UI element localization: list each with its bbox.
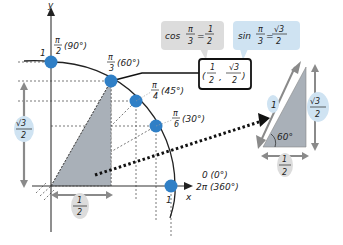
unit-circle-diagram: y x 1 1 π 2 (90°) π 3 (60°) π 4 (45°) π … — [0, 0, 343, 245]
svg-text:0 (0°): 0 (0°) — [202, 170, 228, 180]
y-one-label: 1 — [40, 48, 46, 58]
svg-text:2: 2 — [56, 47, 61, 56]
svg-text:,: , — [219, 72, 222, 82]
label-90: π 2 (90°) — [54, 36, 87, 56]
svg-text:=: = — [266, 31, 274, 41]
angle-label: 60° — [277, 132, 293, 142]
cos-callout: cos π 3 = 1 2 — [161, 21, 224, 60]
svg-text:2: 2 — [232, 76, 237, 85]
svg-text:2π (360°): 2π (360°) — [196, 182, 239, 192]
x-axis-label: x — [185, 192, 192, 202]
svg-text:2: 2 — [276, 37, 281, 46]
point-60[interactable] — [105, 75, 118, 88]
svg-text:(60°): (60°) — [117, 58, 140, 68]
svg-text:2: 2 — [315, 110, 320, 119]
svg-text:(45°): (45°) — [161, 86, 184, 96]
x-axis-arrow-icon — [184, 182, 193, 190]
svg-text:2: 2 — [282, 168, 287, 177]
coordinate-box: ( 1 2 , √3 2 ) — [199, 59, 251, 89]
label-45: π 4 (45°) — [136, 81, 184, 101]
x-one-label: 1 — [166, 195, 172, 205]
base-measure: 1 2 — [51, 191, 113, 219]
svg-text:=: = — [197, 31, 205, 41]
dotted-arrow — [95, 121, 262, 175]
svg-text:π: π — [188, 25, 193, 34]
svg-text:π: π — [173, 109, 178, 118]
point-90[interactable] — [45, 56, 58, 69]
svg-text:π: π — [108, 53, 113, 62]
height-measure: √3 2 — [14, 82, 34, 188]
svg-text:√3: √3 — [229, 63, 239, 72]
svg-text:π: π — [152, 81, 157, 90]
svg-text:4: 4 — [153, 92, 158, 101]
svg-text:(90°): (90°) — [64, 41, 87, 51]
hyp-label: 1 — [271, 100, 277, 110]
svg-text:π: π — [55, 36, 60, 45]
svg-text:(: ( — [202, 71, 206, 81]
svg-text:1: 1 — [282, 155, 287, 164]
svg-text:√3: √3 — [310, 97, 320, 106]
sin-callout: sin π 3 = √3 2 — [233, 21, 300, 60]
y-axis-label: y — [47, 0, 54, 10]
point-0[interactable] — [165, 180, 178, 193]
svg-text:6: 6 — [174, 120, 179, 129]
svg-text:3: 3 — [258, 37, 263, 46]
svg-text:√3: √3 — [16, 119, 26, 128]
svg-text:): ) — [241, 71, 246, 81]
label-30: π 6 (30°) — [156, 109, 205, 129]
svg-text:1: 1 — [208, 25, 213, 34]
label-60: π 3 (60°) — [107, 53, 140, 73]
svg-text:2: 2 — [77, 208, 82, 217]
svg-text:2: 2 — [21, 131, 26, 140]
svg-text:sin: sin — [238, 31, 251, 41]
svg-text:2: 2 — [207, 37, 212, 46]
svg-text:3: 3 — [188, 37, 193, 46]
svg-text:1: 1 — [77, 196, 82, 205]
svg-text:√3: √3 — [274, 25, 284, 34]
svg-text:2: 2 — [209, 76, 214, 85]
svg-text:1: 1 — [210, 63, 215, 72]
svg-text:cos: cos — [165, 31, 180, 41]
svg-text:(30°): (30°) — [182, 114, 205, 124]
svg-text:π: π — [258, 25, 263, 34]
svg-text:3: 3 — [109, 64, 114, 73]
label-0: 0 (0°) 2π (360°) — [196, 170, 239, 192]
